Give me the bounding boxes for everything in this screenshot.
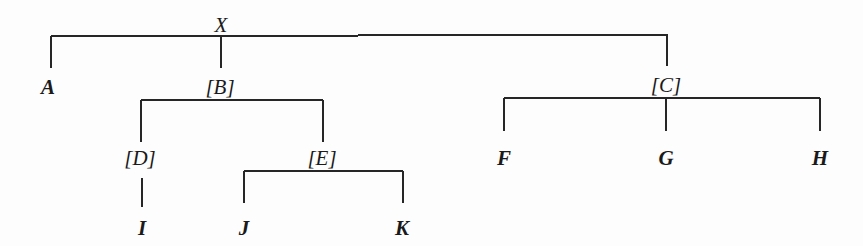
tree-node-c: [C] — [651, 73, 681, 97]
tree-nodes: XA[B][C][D][E]FGHIJK — [39, 13, 829, 240]
tree-node-j: J — [238, 216, 251, 240]
tree-edges — [51, 35, 820, 207]
tree-node-a: A — [39, 75, 55, 99]
tree-node-h: H — [811, 146, 829, 170]
tree-diagram: XA[B][C][D][E]FGHIJK — [0, 0, 863, 246]
tree-edge-line — [51, 35, 668, 36]
tree-node-k: K — [394, 216, 411, 240]
tree-node-i: I — [137, 216, 147, 240]
tree-node-f: F — [496, 146, 511, 170]
tree-node-x: X — [214, 13, 229, 37]
tree-node-g: G — [658, 146, 673, 170]
tree-node-d: [D] — [124, 146, 156, 170]
tree-node-b: [B] — [205, 75, 234, 99]
tree-node-e: [E] — [307, 146, 336, 170]
